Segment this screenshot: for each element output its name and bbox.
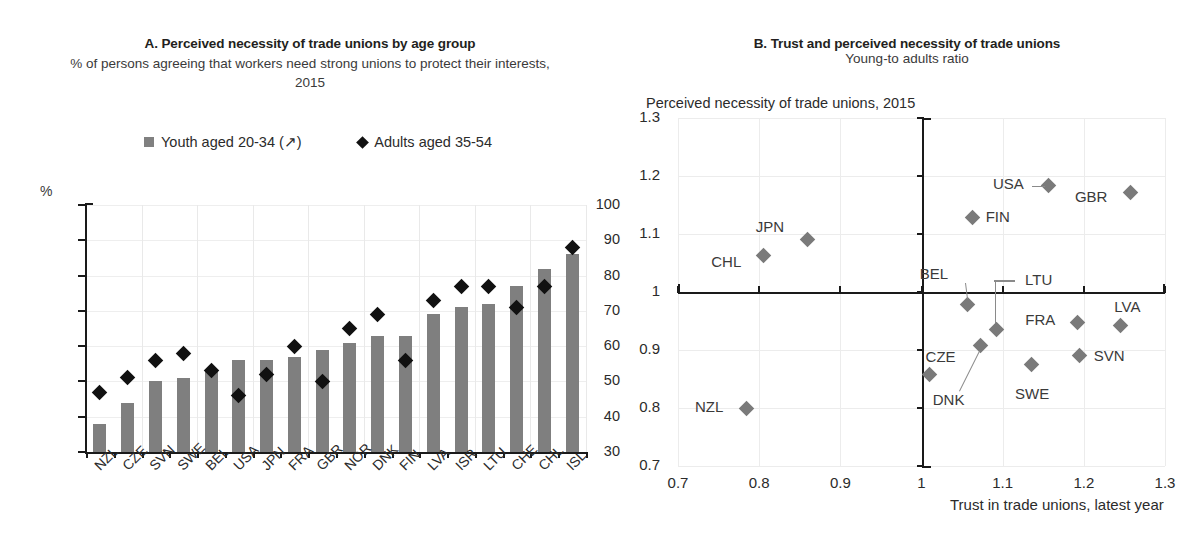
xtick-label: 1: [902, 474, 942, 491]
ytick-label: 1.3: [626, 108, 660, 125]
panel-a-header: A. Perceived necessity of trade unions b…: [0, 36, 620, 92]
leader-line-usa: [1032, 186, 1045, 187]
ytick-mark: [78, 275, 86, 277]
xtick-mark: [677, 286, 679, 293]
ytick-mark: [78, 451, 86, 453]
square-marker-icon: [144, 137, 154, 147]
legend-item-youth: Youth aged 20-34 (↗): [144, 134, 302, 150]
xtick-label: 1.1: [983, 474, 1023, 491]
gridline-vertical: [308, 205, 309, 452]
ytick-mark: [917, 465, 924, 467]
ytick-mark: [917, 233, 924, 235]
bar-swe: [177, 378, 190, 452]
bar-usa: [232, 360, 245, 452]
bar-svn: [149, 381, 162, 452]
ytick-label: 0.7: [626, 456, 660, 473]
bar-gbr: [316, 350, 329, 452]
ytick-label: 100: [580, 196, 620, 212]
scatter-label-bel: BEL: [920, 265, 948, 282]
leader-line-ltu-h: [994, 280, 1015, 281]
figure-root: A. Perceived necessity of trade unions b…: [0, 0, 1194, 541]
legend-label-youth: Youth aged 20-34 (↗): [161, 134, 302, 150]
ytick-mark: [78, 204, 86, 206]
xtick-label: 1.3: [1145, 474, 1185, 491]
gridline-vertical: [253, 205, 254, 452]
scatter-label-fra: FRA: [1025, 311, 1055, 328]
xtick-mark: [1083, 286, 1085, 293]
gridline-vertical: [419, 205, 420, 452]
ytick-label: 1.1: [626, 224, 660, 241]
xtick-label: 0.8: [739, 474, 779, 491]
gridline-horizontal: [86, 276, 586, 277]
bar-isr: [455, 307, 468, 452]
ytick-label: 0.8: [626, 398, 660, 415]
ytick-label: 80: [580, 267, 620, 283]
ytick-mark: [78, 239, 86, 241]
ytick-label: 90: [580, 231, 620, 247]
scatter-label-usa: USA: [993, 175, 1024, 192]
scatter-label-fin: FIN: [986, 208, 1010, 225]
ytick-mark: [917, 407, 924, 409]
diamond-nzl: [92, 384, 108, 400]
leader-line-ltu-v: [995, 281, 996, 323]
ytick-label: 50: [580, 372, 620, 388]
scatter-label-lva: LVA: [1114, 298, 1140, 315]
ytick-mark: [917, 117, 924, 119]
xtick-mark: [1002, 286, 1004, 293]
bar-fra: [288, 357, 301, 452]
diamond-svn: [148, 352, 164, 368]
xtick-mark: [86, 452, 88, 458]
legend-item-adults: Adults aged 35-54: [358, 134, 492, 150]
bar-dnk: [371, 336, 384, 452]
gridline-horizontal: [86, 240, 586, 241]
gridline-vertical: [475, 205, 476, 452]
diamond-nor: [342, 321, 358, 337]
gridline-horizontal: [86, 205, 586, 206]
bar-isl: [566, 254, 579, 452]
xtick-mark: [758, 286, 760, 293]
scatter-label-svn: SVN: [1094, 347, 1125, 364]
bar-lva: [427, 314, 440, 452]
scatter-label-cze: CZE: [926, 348, 956, 365]
scatter-label-jpn: JPN: [756, 218, 784, 235]
panel-b-xaxis-title: Trust in trade unions, latest year: [950, 496, 1164, 513]
gridline-vertical: [530, 205, 531, 452]
legend-label-adults: Adults aged 35-54: [374, 134, 492, 150]
panel-a-ylabel: %: [40, 183, 52, 199]
ytick-label: 1: [626, 282, 660, 299]
diamond-isl: [564, 240, 580, 256]
xtick-label: 0.9: [820, 474, 860, 491]
panel-a: A. Perceived necessity of trade unions b…: [0, 0, 620, 541]
diamond-ltu: [481, 278, 497, 294]
bar-bel: [205, 371, 218, 452]
scatter-label-gbr: GBR: [1075, 188, 1108, 205]
scatter-label-swe: SWE: [1015, 385, 1049, 402]
gridline-vertical: [364, 205, 365, 452]
scatter-label-nzl: NZL: [695, 398, 723, 415]
gridline-vertical: [197, 205, 198, 452]
diamond-marker-icon: [356, 136, 369, 149]
ytick-mark: [917, 349, 924, 351]
ytick-mark: [78, 416, 86, 418]
xtick-mark: [839, 286, 841, 293]
xtick-label: 1.2: [1064, 474, 1104, 491]
panel-b: B. Trust and perceived necessity of trad…: [620, 0, 1194, 541]
panel-b-ylabel: Perceived necessity of trade unions, 201…: [646, 95, 915, 111]
ytick-mark: [78, 345, 86, 347]
panel-a-subtitle: % of persons agreeing that workers need …: [65, 54, 555, 92]
diamond-isr: [453, 278, 469, 294]
diamond-lva: [425, 292, 441, 308]
panel-b-title: B. Trust and perceived necessity of trad…: [620, 36, 1194, 51]
ytick-label: 60: [580, 337, 620, 353]
diamond-fra: [287, 338, 303, 354]
xtick-mark: [1164, 286, 1166, 293]
panel-b-header: B. Trust and perceived necessity of trad…: [620, 36, 1194, 66]
panel-b-subtitle: Young-to adults ratio: [620, 51, 1194, 66]
diamond-swe: [175, 345, 191, 361]
scatter-label-dnk: DNK: [933, 391, 965, 408]
bar-chl: [538, 269, 551, 452]
panel-a-yaxis-cap: [85, 203, 93, 205]
panel-a-plot-area: [86, 205, 586, 452]
ytick-mark: [917, 291, 924, 293]
diamond-dnk: [370, 307, 386, 323]
